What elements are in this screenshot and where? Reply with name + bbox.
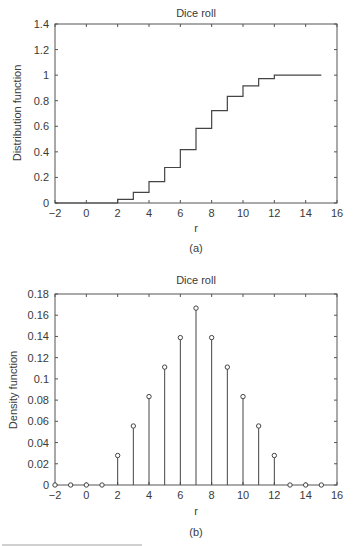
axes-frame — [55, 24, 337, 203]
y-tick-label: 0.6 — [34, 120, 49, 132]
x-tick-label: 0 — [83, 207, 89, 219]
y-tick-label: 0.8 — [34, 95, 49, 107]
y-tick-label: 1.2 — [34, 44, 49, 56]
stem-marker — [256, 424, 260, 428]
x-tick-label: 2 — [115, 207, 121, 219]
stem-marker — [319, 483, 323, 487]
x-tick-label: 6 — [177, 207, 183, 219]
stem-marker — [241, 394, 245, 398]
y-tick-label: 0.4 — [34, 146, 49, 158]
x-tick-label: 8 — [209, 207, 215, 219]
y-tick-label: 0.12 — [28, 352, 49, 364]
stem-marker — [162, 365, 166, 369]
x-tick-label: 14 — [300, 207, 312, 219]
x-axis-label: r — [194, 222, 198, 234]
stem-marker — [147, 394, 151, 398]
x-tick-label: 16 — [331, 207, 343, 219]
y-tick-label: 1 — [43, 69, 49, 81]
x-axis-label: r — [194, 505, 198, 517]
y-tick-label: 0.14 — [28, 330, 49, 342]
x-tick-label: 14 — [300, 489, 312, 501]
x-tick-label: 12 — [268, 207, 280, 219]
stem-marker — [131, 424, 135, 428]
x-tick-label: −2 — [49, 207, 62, 219]
stem-marker — [100, 483, 104, 487]
stem-marker — [194, 306, 198, 310]
y-tick-label: 0.08 — [28, 394, 49, 406]
y-tick-label: 0 — [43, 197, 49, 209]
x-tick-label: 2 — [115, 489, 121, 501]
x-tick-label: 8 — [209, 489, 215, 501]
x-tick-label: 0 — [83, 489, 89, 501]
stem-marker — [209, 335, 213, 339]
x-tick-label: 6 — [177, 489, 183, 501]
y-tick-label: 0.16 — [28, 309, 49, 321]
cdf-step-line — [55, 75, 321, 203]
density-chart-panel: Dice roll −2024681012141600.020.040.060.… — [7, 274, 343, 538]
panel-label: (b) — [189, 526, 202, 538]
chart-title: Dice roll — [176, 7, 216, 19]
chart-title: Dice roll — [176, 274, 216, 286]
x-tick-label: 10 — [237, 207, 249, 219]
x-tick-label: −2 — [49, 489, 62, 501]
x-tick-label: 12 — [268, 489, 280, 501]
stem-marker — [272, 453, 276, 457]
y-axis-label: Distribution function — [11, 65, 23, 162]
x-tick-label: 10 — [237, 489, 249, 501]
x-tick-label: 16 — [331, 489, 343, 501]
x-tick-label: 4 — [146, 207, 152, 219]
x-tick-label: 4 — [146, 489, 152, 501]
figure: Dice roll −2024681012141600.20.40.60.811… — [0, 0, 353, 546]
y-tick-label: 0 — [43, 479, 49, 491]
y-tick-label: 0.18 — [28, 288, 49, 300]
stem-marker — [178, 335, 182, 339]
panel-label: (a) — [189, 242, 202, 254]
y-axis-label: Density function — [7, 351, 19, 429]
plot-area: −2024681012141600.020.040.060.080.10.120… — [28, 288, 344, 501]
stem-marker — [53, 483, 57, 487]
y-tick-label: 0.1 — [34, 373, 49, 385]
y-tick-label: 0.06 — [28, 415, 49, 427]
y-tick-label: 0.2 — [34, 171, 49, 183]
distribution-chart-panel: Dice roll −2024681012141600.20.40.60.811… — [11, 7, 343, 254]
stem-marker — [225, 365, 229, 369]
y-tick-label: 0.04 — [28, 437, 49, 449]
stem-marker — [288, 483, 292, 487]
stem-marker — [68, 483, 72, 487]
stem-marker — [115, 453, 119, 457]
y-tick-label: 0.02 — [28, 458, 49, 470]
y-tick-label: 1.4 — [34, 18, 49, 30]
stem-marker — [303, 483, 307, 487]
plot-area: −2024681012141600.20.40.60.811.21.4 — [34, 18, 343, 219]
stem-marker — [84, 483, 88, 487]
